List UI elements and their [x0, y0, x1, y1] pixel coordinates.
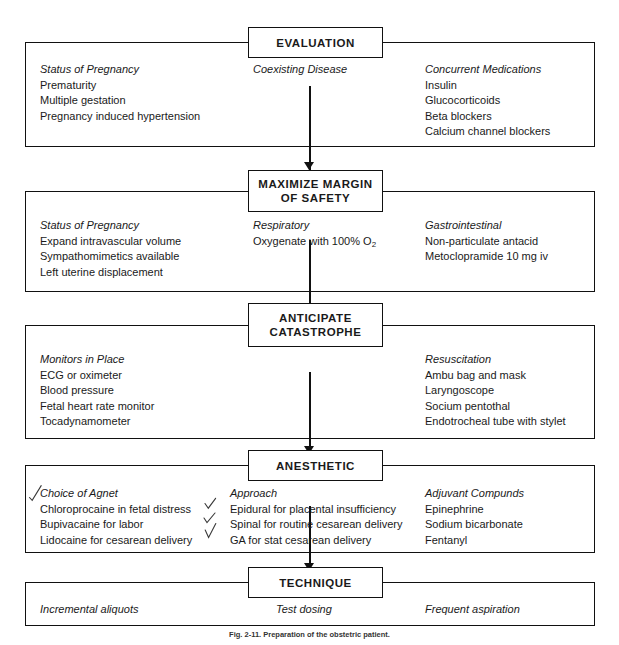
column-heading: Monitors in Place [40, 352, 154, 368]
column-item: Spinal for routine cesarean delivery [230, 517, 402, 533]
column-item: Non-particulate antacid [425, 234, 548, 250]
column-item: Expand intravascular volume [40, 234, 181, 250]
column-item: Left uterine displacement [40, 265, 181, 281]
column-heading: Concurrent Medications [425, 62, 550, 78]
stage-evaluation-title: EVALUATION [249, 36, 382, 50]
column-item: Beta blockers [425, 109, 550, 125]
column-item: Calcium channel blockers [425, 124, 550, 140]
column-heading: Approach [230, 486, 402, 502]
column-item: Fentanyl [425, 533, 524, 549]
connector-line [309, 86, 311, 170]
column-concurrent-medications: Concurrent Medications Insulin Glucocort… [425, 62, 550, 140]
column-heading: Resuscitation [425, 352, 566, 368]
column-item: Lidocaine for cesarean delivery [40, 533, 192, 549]
column-monitors-in-place: Monitors in Place ECG or oximeter Blood … [40, 352, 154, 430]
stage-technique-header: TECHNIQUE [248, 567, 383, 598]
flowchart-figure: EVALUATION Status of Pregnancy Prematuri… [0, 0, 619, 645]
column-choice-of-agent: Choice of Agnet Chloroprocaine in fetal … [40, 486, 192, 548]
column-approach: Approach Epidural for placental insuffic… [230, 486, 402, 548]
column-item: Fetal heart rate monitor [40, 399, 154, 415]
stage-anesthetic-title: ANESTHETIC [249, 459, 382, 473]
column-item: GA for stat cesarean delivery [230, 533, 402, 549]
column-respiratory: Respiratory Oxygenate with 100% O2 [253, 218, 376, 252]
column-heading: Respiratory [253, 218, 376, 234]
column-item: Prematurity [40, 78, 200, 94]
column-heading: Coexisting Disease [253, 62, 347, 78]
figure-caption: Fig. 2-11. Preparation of the obstetric … [0, 630, 619, 645]
column-heading: Status of Pregnancy [40, 62, 200, 78]
column-item: Insulin [425, 78, 550, 94]
column-item: Ambu bag and mask [425, 368, 566, 384]
column-item: Pregnancy induced hypertension [40, 109, 200, 125]
connector-line [309, 372, 311, 454]
column-coexisting-disease: Coexisting Disease [253, 62, 347, 78]
column-item: Epinephrine [425, 502, 524, 518]
column-item: Blood pressure [40, 383, 154, 399]
connector-arrowhead [304, 162, 314, 170]
stage-maximize-title-line-2: OF SAFETY [249, 191, 382, 205]
column-item: Metoclopramide 10 mg iv [425, 249, 548, 265]
column-heading: Adjuvant Compunds [425, 486, 524, 502]
stage-maximize-title-line-1: MAXIMIZE MARGIN [249, 177, 382, 191]
column-heading: Status of Pregnancy [40, 218, 181, 234]
column-heading: Gastrointestinal [425, 218, 548, 234]
stage-anticipate-title-line-1: ANTICIPATE [249, 311, 382, 325]
stage-technique-title: TECHNIQUE [249, 576, 382, 590]
column-item: Chloroprocaine in fetal distress [40, 502, 192, 518]
stage-evaluation-header: EVALUATION [248, 27, 383, 58]
column-item: ECG or oximeter [40, 368, 154, 384]
column-item: Glucocorticoids [425, 93, 550, 109]
column-item: Sodium bicarbonate [425, 517, 524, 533]
column-resuscitation: Resuscitation Ambu bag and mask Laryngos… [425, 352, 566, 430]
column-item: Multiple gestation [40, 93, 200, 109]
stage-anticipate-title-line-2: CATASTROPHE [249, 325, 382, 339]
column-status-of-pregnancy: Status of Pregnancy Prematurity Multiple… [40, 62, 200, 124]
stage-anticipate-header: ANTICIPATE CATASTROPHE [248, 303, 383, 347]
column-item: Bupivacaine for labor [40, 517, 192, 533]
column-item: Tocadynamometer [40, 414, 154, 430]
technique-item-frequent-aspiration: Frequent aspiration [425, 603, 520, 615]
stage-maximize-header: MAXIMIZE MARGIN OF SAFETY [248, 170, 383, 212]
column-item: Epidural for placental insufficiency [230, 502, 402, 518]
column-item: Endotrocheal tube with stylet [425, 414, 566, 430]
column-heading: Choice of Agnet [40, 486, 192, 502]
column-adjuvant-compounds: Adjuvant Compunds Epinephrine Sodium bic… [425, 486, 524, 548]
column-item: Sympathomimetics available [40, 249, 181, 265]
technique-item-test-dosing: Test dosing [276, 603, 332, 615]
column-status-of-pregnancy-2: Status of Pregnancy Expand intravascular… [40, 218, 181, 280]
column-item-oxygenate: Oxygenate with 100% O2 [253, 234, 376, 253]
column-item: Laryngoscope [425, 383, 566, 399]
technique-item-incremental-aliquots: Incremental aliquots [40, 603, 138, 615]
stage-anesthetic-header: ANESTHETIC [248, 450, 383, 481]
column-gastrointestinal: Gastrointestinal Non-particulate antacid… [425, 218, 548, 265]
column-item: Socium pentothal [425, 399, 566, 415]
